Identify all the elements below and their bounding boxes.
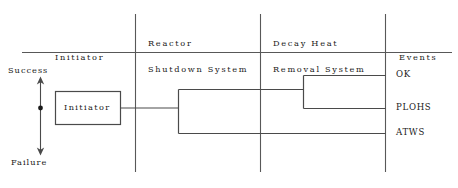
outcome-label-plohs: PLOHS — [396, 103, 431, 112]
outcome-label-ok: OK — [396, 70, 411, 79]
column-header-reactor-shutdown-system: Reactor Shutdown System — [148, 22, 248, 91]
axis-midpoint-dot — [38, 106, 43, 111]
axis-label-success: Success — [8, 66, 48, 75]
initiator-box-label: Initiator — [64, 103, 111, 112]
column-header-initiator: Initiator — [55, 36, 104, 79]
axis-label-failure: Failure — [11, 158, 47, 167]
column-header-decay-heat-removal-system: Decay Heat Removal System — [273, 22, 366, 91]
outcome-label-atws: ATWS — [396, 128, 425, 137]
event-tree-diagram: Initiator Reactor Shutdown System Decay … — [0, 0, 458, 188]
